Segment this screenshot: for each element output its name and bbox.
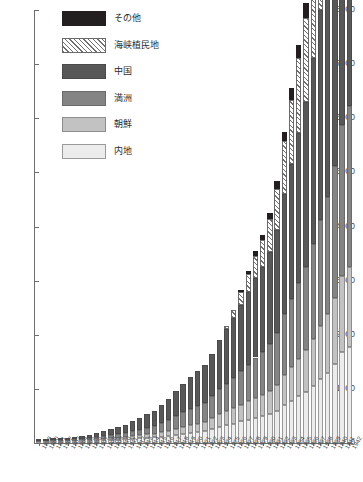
bar-segment (108, 429, 113, 435)
bar-segment (296, 133, 301, 283)
bar-segment (217, 414, 222, 426)
bar-segment (195, 371, 200, 406)
bar (253, 251, 258, 443)
bar-segment (180, 427, 185, 434)
bar (303, 3, 308, 443)
bar (267, 213, 272, 443)
kaikyo-swatch (62, 38, 106, 53)
bar-segment (253, 358, 258, 398)
legend-item: 内地 (62, 141, 197, 162)
bar-segment (339, 276, 344, 352)
bar-segment (209, 418, 214, 429)
bar-segment (267, 252, 272, 344)
chosen-swatch (62, 117, 106, 132)
bar-segment (144, 414, 149, 428)
bar-segment (347, 0, 352, 106)
chugoku-swatch (62, 64, 106, 79)
legend-item-label: その他 (114, 14, 141, 23)
bar-segment (130, 421, 135, 431)
bar-segment (274, 189, 279, 230)
bar-segment (289, 88, 294, 99)
bar-segment (296, 58, 301, 133)
bar (274, 181, 279, 443)
bar (332, 0, 337, 443)
bar (318, 0, 323, 443)
bar-segment (159, 423, 164, 432)
bar-segment (209, 396, 214, 418)
bar-segment (318, 0, 323, 10)
bar-segment (260, 352, 265, 395)
bar-segment (332, 298, 337, 364)
bar-segment (246, 271, 251, 274)
legend-item: 満洲 (62, 88, 197, 109)
bar-segment (238, 305, 243, 371)
bar-segment (289, 367, 294, 401)
bar-segment (303, 350, 308, 392)
bar-segment (253, 256, 258, 279)
bar-segment (260, 267, 265, 352)
bar-segment (318, 220, 323, 326)
legend-item: 朝鮮 (62, 114, 197, 135)
bar-segment (267, 344, 272, 391)
bar-segment (202, 365, 207, 403)
bar (195, 371, 200, 443)
x-axis-tick (39, 443, 40, 446)
bar-segment (318, 326, 323, 379)
bar-segment (188, 409, 193, 425)
bar-segment (274, 385, 279, 411)
bar-segment (303, 267, 308, 350)
bar-segment (246, 365, 251, 402)
bar-segment (238, 405, 243, 422)
bar-segment (224, 411, 229, 425)
bar (339, 0, 344, 443)
naichi-swatch (62, 144, 106, 159)
bar-segment (188, 425, 193, 433)
bar-segment (282, 194, 287, 314)
bar-segment (325, 314, 330, 372)
bar-segment (224, 384, 229, 412)
bar-segment (260, 240, 265, 267)
sonota-swatch (62, 11, 106, 26)
bar-segment (36, 439, 41, 441)
bar-segment (296, 359, 301, 397)
bar-segment (253, 251, 258, 255)
bar-segment (166, 420, 171, 431)
bar-segment (246, 292, 251, 365)
bar-segment (347, 267, 352, 347)
bar-segment (296, 283, 301, 359)
bar (224, 326, 229, 443)
bar-segment (318, 379, 323, 443)
bar-segment (180, 412, 185, 427)
bar-segment (289, 299, 294, 367)
bar-segment (325, 373, 330, 443)
bar-segment (231, 318, 236, 378)
bar-segment (289, 100, 294, 164)
bar-segment (332, 166, 337, 298)
bar-segment (311, 339, 316, 386)
bar (311, 0, 316, 443)
bar-segment (246, 401, 251, 419)
bar-segment (303, 18, 308, 102)
bar-segment (296, 45, 301, 58)
legend-item: 海峡植民地 (62, 35, 197, 56)
bar-segment (311, 0, 316, 58)
bar-segment (253, 278, 258, 357)
bar-segment (209, 354, 214, 397)
bar (246, 271, 251, 443)
bar-segment (347, 106, 352, 266)
bar-segment (144, 428, 149, 435)
bar-segment (180, 384, 185, 413)
bar-segment (195, 406, 200, 424)
bar-segment (332, 0, 337, 166)
bar (296, 45, 301, 443)
manshu-swatch (62, 91, 106, 106)
bar-segment (339, 352, 344, 443)
bar (36, 440, 41, 443)
legend-item-label: 満洲 (114, 94, 132, 103)
bar (188, 377, 193, 443)
bar-segment (173, 391, 178, 416)
bar-segment (260, 235, 265, 240)
bar-segment (274, 181, 279, 189)
bar-segment (202, 403, 207, 422)
